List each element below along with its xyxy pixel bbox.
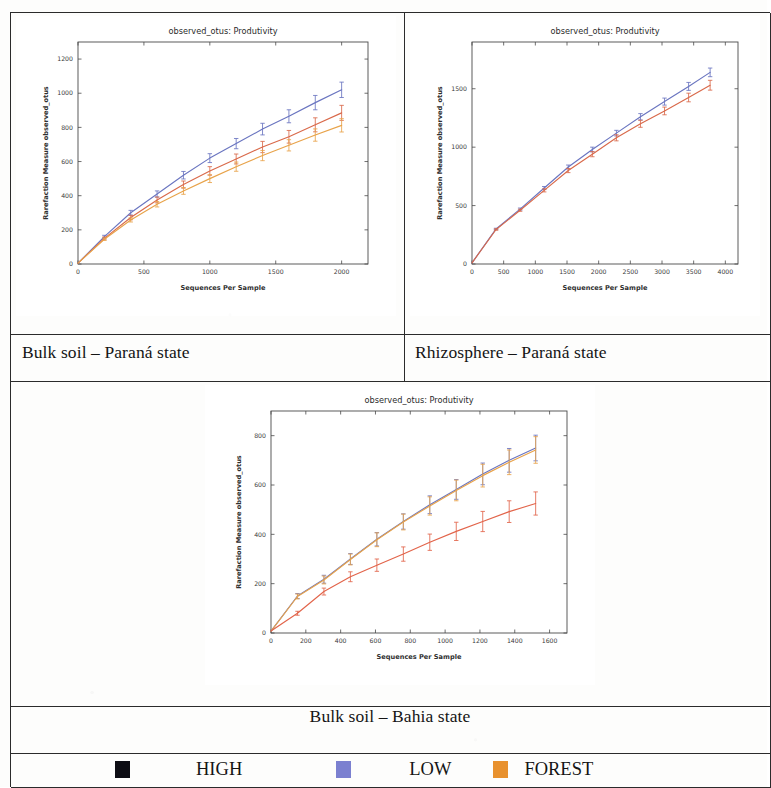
legend-item-low: LOW: [336, 759, 451, 780]
svg-text:3500: 3500: [686, 268, 702, 275]
svg-text:4000: 4000: [717, 268, 733, 275]
svg-text:1500: 1500: [451, 85, 467, 92]
caption-bulk-soil-bahia: Bulk soil – Bahia state: [11, 706, 769, 727]
legend-label-low: LOW: [409, 759, 451, 780]
svg-text:Rarefaction Measure observed_: Rarefaction Measure observed_otus: [235, 455, 243, 589]
svg-text:0: 0: [463, 260, 467, 267]
svg-text:Rarefaction Measure observed_: Rarefaction Measure observed_otus: [42, 86, 50, 220]
chart-1-svg: observed_otus: Produtivity05001000150020…: [16, 16, 396, 316]
legend-swatch-forest: [493, 761, 508, 778]
legend-item-high: HIGH: [115, 759, 242, 780]
svg-text:1000: 1000: [437, 637, 453, 644]
chart-2-svg: observed_otus: Produtivity05001000150020…: [410, 16, 760, 316]
legend: HIGH LOW FOREST: [12, 752, 752, 786]
svg-text:1200: 1200: [57, 55, 73, 62]
table-rule-row1-bottom: [11, 334, 771, 335]
svg-text:1200: 1200: [472, 637, 488, 644]
svg-text:400: 400: [61, 192, 73, 199]
svg-text:Sequences Per Sample: Sequences Per Sample: [563, 284, 648, 292]
svg-text:200: 200: [254, 580, 266, 587]
svg-text:1500: 1500: [268, 268, 284, 275]
svg-text:1000: 1000: [527, 268, 543, 275]
svg-text:0: 0: [269, 637, 273, 644]
svg-text:Sequences Per Sample: Sequences Per Sample: [181, 284, 266, 292]
svg-text:200: 200: [300, 637, 312, 644]
legend-swatch-high: [115, 761, 130, 778]
svg-text:1400: 1400: [507, 637, 523, 644]
svg-text:600: 600: [254, 481, 266, 488]
svg-text:3000: 3000: [654, 268, 670, 275]
svg-text:800: 800: [404, 637, 416, 644]
svg-text:1000: 1000: [202, 268, 218, 275]
svg-text:observed_otus: Produtivity: observed_otus: Produtivity: [168, 26, 277, 36]
legend-swatch-low: [336, 761, 351, 778]
svg-text:0: 0: [76, 268, 80, 275]
svg-text:2000: 2000: [591, 268, 607, 275]
table-rule-row2-bottom: [11, 381, 771, 382]
svg-text:500: 500: [455, 202, 467, 209]
svg-text:600: 600: [61, 158, 73, 165]
svg-text:0: 0: [69, 260, 73, 267]
legend-item-forest: FOREST: [493, 759, 593, 780]
caption-rhizosphere-parana: Rhizosphere – Paraná state: [415, 342, 607, 363]
svg-text:1000: 1000: [451, 143, 467, 150]
svg-text:600: 600: [370, 637, 382, 644]
svg-text:1500: 1500: [559, 268, 575, 275]
svg-text:800: 800: [254, 432, 266, 439]
chart-3-svg: observed_otus: Produtivity02004006008001…: [205, 385, 595, 685]
caption-bulk-soil-parana: Bulk soil – Paraná state: [22, 342, 190, 363]
svg-text:0: 0: [262, 629, 266, 636]
table-divider-middle: [404, 13, 405, 381]
legend-label-forest: FOREST: [524, 759, 593, 780]
svg-text:400: 400: [254, 531, 266, 538]
svg-text:Sequences Per Sample: Sequences Per Sample: [377, 653, 462, 661]
chart-rhizosphere-parana: observed_otus: Produtivity05001000150020…: [410, 16, 760, 316]
svg-text:1000: 1000: [57, 89, 73, 96]
svg-text:400: 400: [335, 637, 347, 644]
chart-bulk-soil-bahia: observed_otus: Produtivity02004006008001…: [205, 385, 595, 685]
svg-text:observed_otus: Produtivity: observed_otus: Produtivity: [550, 26, 659, 36]
svg-text:500: 500: [138, 268, 150, 275]
svg-text:2500: 2500: [622, 268, 638, 275]
svg-text:2000: 2000: [334, 268, 350, 275]
svg-text:0: 0: [470, 268, 474, 275]
legend-label-high: HIGH: [196, 759, 242, 780]
svg-text:500: 500: [498, 268, 510, 275]
svg-text:1600: 1600: [542, 637, 558, 644]
svg-text:observed_otus: Produtivity: observed_otus: Produtivity: [364, 395, 473, 405]
svg-text:Rarefaction Measure observed_: Rarefaction Measure observed_otus: [436, 86, 444, 220]
svg-text:800: 800: [61, 124, 73, 131]
svg-text:200: 200: [61, 226, 73, 233]
chart-bulk-soil-parana: observed_otus: Produtivity05001000150020…: [16, 16, 396, 316]
